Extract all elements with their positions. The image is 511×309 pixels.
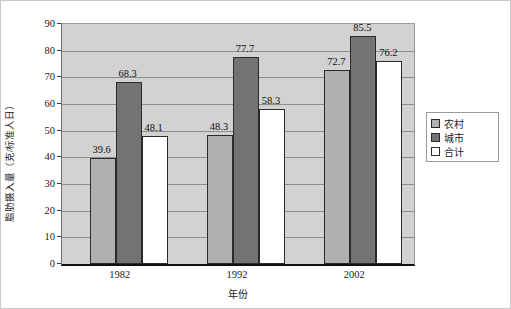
bar-合计-2002 <box>376 61 402 264</box>
legend-item-农村[interactable]: 农村 <box>431 116 494 130</box>
bar-value-label: 77.7 <box>236 43 254 54</box>
y-tick-label: 60 <box>9 98 55 109</box>
x-tick-label-2002: 2002 <box>344 269 365 280</box>
legend-label: 农村 <box>444 116 464 131</box>
bar-value-label: 85.5 <box>353 22 371 33</box>
x-tick-label-1982: 1982 <box>109 269 130 280</box>
legend-item-合计[interactable]: 合计 <box>431 144 494 158</box>
y-tick-label: 50 <box>9 124 55 135</box>
bar-农村-1982 <box>90 158 116 264</box>
legend-item-城市[interactable]: 城市 <box>431 130 494 144</box>
legend-swatch-icon <box>431 119 440 128</box>
plot-area <box>61 23 415 266</box>
bar-value-label: 72.7 <box>327 56 345 67</box>
y-tick-label: 70 <box>9 71 55 82</box>
bar-农村-1992 <box>207 135 233 264</box>
y-tick-label: 10 <box>9 231 55 242</box>
bar-农村-2002 <box>324 70 350 264</box>
bar-value-label: 58.3 <box>262 95 280 106</box>
y-tick-label: 40 <box>9 151 55 162</box>
bar-合计-1992 <box>259 109 285 264</box>
x-tick-label-1992: 1992 <box>227 269 248 280</box>
y-tick-label: 90 <box>9 18 55 29</box>
y-tick-label: 80 <box>9 44 55 55</box>
legend-label: 合计 <box>444 144 464 159</box>
bar-城市-1992 <box>233 57 259 264</box>
y-tick-label: 0 <box>9 258 55 269</box>
bar-value-label: 48.1 <box>144 122 162 133</box>
x-axis-title: 年份 <box>1 286 475 301</box>
bar-value-label: 39.6 <box>92 144 110 155</box>
bar-城市-1982 <box>116 82 142 264</box>
chart-figure: 脂肪摄入量（克/标准人日） 0102030405060708090 39.668… <box>0 0 511 309</box>
y-tick-label: 30 <box>9 178 55 189</box>
bar-value-label: 48.3 <box>210 121 228 132</box>
legend-swatch-icon <box>431 133 440 142</box>
legend-swatch-icon <box>431 147 440 156</box>
bar-城市-2002 <box>350 36 376 264</box>
legend: 农村城市合计 <box>426 112 499 162</box>
legend-label: 城市 <box>444 130 464 145</box>
bar-value-label: 68.3 <box>118 68 136 79</box>
y-tick-label: 20 <box>9 204 55 215</box>
bar-value-label: 76.2 <box>379 47 397 58</box>
bar-合计-1982 <box>142 136 168 264</box>
